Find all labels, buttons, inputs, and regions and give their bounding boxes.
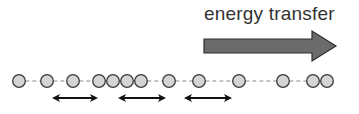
particle-circle (13, 75, 26, 88)
big-arrow-shape (204, 31, 336, 61)
double-arrow-icon (52, 94, 98, 102)
double-arrow-icon (118, 94, 166, 102)
particle-circle (107, 75, 120, 88)
energy-transfer-diagram (0, 0, 359, 114)
double-arrow-icon (184, 94, 232, 102)
particle-circle (321, 75, 334, 88)
particle-circle (307, 75, 320, 88)
particle-circle (163, 75, 176, 88)
particle-circle (277, 75, 290, 88)
particle-circle (135, 75, 148, 88)
particle-circle (193, 75, 206, 88)
energy-transfer-arrow-icon (204, 31, 336, 61)
particle-circle (233, 75, 246, 88)
oscillation-arrows (52, 94, 232, 102)
particle-circle (121, 75, 134, 88)
particle-circle (41, 75, 54, 88)
particle-circle (67, 75, 80, 88)
particle-circle (93, 75, 106, 88)
